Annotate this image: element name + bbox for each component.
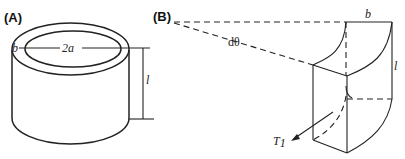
panel-a-label: (A) bbox=[4, 10, 22, 25]
length-label-b: l bbox=[394, 59, 398, 73]
hidden-inner-curve bbox=[313, 96, 346, 140]
panel-b: (B) dθ b l T1 bbox=[153, 7, 398, 153]
angle-label: dθ bbox=[228, 35, 240, 49]
tension-arrow-shaft bbox=[295, 112, 333, 138]
bottom-right-curve bbox=[347, 99, 392, 153]
top-left-curve bbox=[313, 22, 346, 65]
thickness-label-a: b bbox=[12, 41, 18, 55]
bottom-front-edge bbox=[313, 140, 347, 153]
panel-b-label: (B) bbox=[153, 9, 171, 24]
ray-lower bbox=[174, 23, 313, 65]
diameter-label: 2a bbox=[62, 41, 74, 55]
top-front-edge bbox=[313, 65, 347, 76]
top-right-curve bbox=[347, 22, 392, 76]
length-label-a: l bbox=[146, 73, 150, 87]
thickness-label-b: b bbox=[365, 7, 371, 21]
tension-label: T1 bbox=[273, 134, 286, 150]
cylinder-bottom-edge bbox=[12, 118, 129, 144]
panel-a: (A) 2a b l bbox=[4, 10, 154, 144]
diagram-canvas: (A) 2a b l (B) dθ b bbox=[0, 0, 405, 159]
